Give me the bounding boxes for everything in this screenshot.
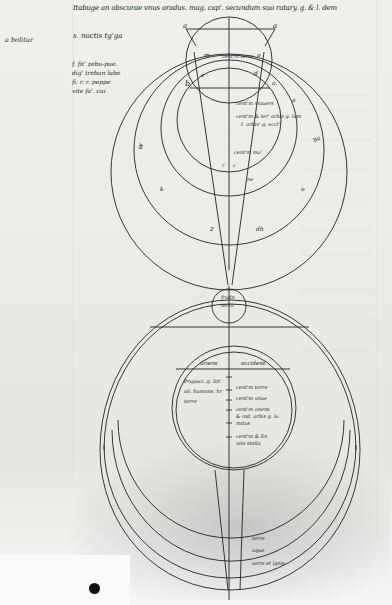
letter-ne: ne — [247, 177, 253, 182]
letter-k: k — [160, 186, 164, 192]
left-block-line-3: terre — [184, 399, 197, 404]
small-circle-label-1: frodn — [221, 295, 235, 300]
upper-cone-right — [232, 52, 264, 285]
letter-o-lower: o — [301, 186, 305, 192]
arc-label-terre: terre — [252, 536, 265, 541]
letter-c: c — [201, 72, 204, 78]
letter-c2: c — [233, 163, 236, 168]
arc-label-aeris: aeris et ignis — [252, 561, 285, 566]
margin-left-note: a bolitur — [5, 37, 33, 44]
gloss-line-1: f. fit' zebu-pue. — [72, 61, 117, 67]
label-centrum-line2: t. orbis' g. eccl' — [241, 122, 280, 127]
label-centrum-line1: cent'm & ter' orbis g. lum — [236, 114, 301, 119]
letter-a-left: a — [183, 23, 187, 30]
gloss-line-2: dig' treban lube — [72, 70, 120, 76]
cosmological-diagram — [0, 0, 392, 605]
letter-r: r — [222, 163, 224, 168]
right-line-3: cent'm onens — [236, 407, 270, 412]
letter-m: m — [204, 52, 210, 58]
right-line-7: vite stella — [236, 441, 261, 446]
letter-w: w — [137, 143, 145, 150]
letter-dh: dh — [256, 226, 264, 232]
left-block-line-2: ali. humans. hr — [184, 389, 222, 394]
right-line-1: cent'm terre — [236, 385, 267, 390]
right-line-6: cent'm & lin — [236, 434, 267, 439]
lower-outer-arc — [100, 300, 360, 450]
right-line-5: mitus — [236, 421, 250, 426]
lower-cone-right — [240, 470, 244, 590]
right-line-4: & ind. orbis g. lo — [236, 414, 279, 419]
arc-label-aque: aque — [252, 548, 264, 553]
lower-outer-bowl — [100, 450, 360, 590]
label-centrum-vniuersi: cent'm vniuers — [236, 101, 273, 106]
small-circle-label-2: terra — [221, 303, 234, 308]
gloss-line-4: vite fa'. cui — [72, 88, 106, 94]
letter-a-inner: a. — [272, 80, 277, 86]
lower-cone-left — [215, 470, 228, 590]
letter-a-right: a — [273, 23, 277, 30]
horizon-label-oriens: oriens — [200, 361, 217, 367]
horizon-label-occidens: occidens — [241, 361, 265, 367]
gloss-line-3: fi. r. r. peppe — [72, 79, 111, 85]
letter-z: z — [210, 226, 214, 233]
letter-o: o — [257, 52, 261, 58]
label-centrum-lower: cent'm mo' — [234, 150, 262, 155]
upper-cone-left — [194, 52, 228, 285]
letter-a-right2: a — [292, 97, 296, 103]
right-line-2: cent'm vnue — [236, 396, 267, 401]
label-centrum-terre-upper: cent'm terre — [222, 54, 253, 59]
header-line-1: Itabuge an obscurae vnus oradus. mag. ca… — [73, 5, 337, 12]
letter-b: b — [185, 80, 190, 88]
letter-d: d — [254, 70, 258, 76]
left-block-line-1: Propoci. g. litt — [184, 379, 220, 384]
lower-earth-circle — [172, 346, 296, 470]
header-line-2: s. noctis tg'ga — [73, 33, 122, 40]
ink-blot — [89, 583, 100, 594]
